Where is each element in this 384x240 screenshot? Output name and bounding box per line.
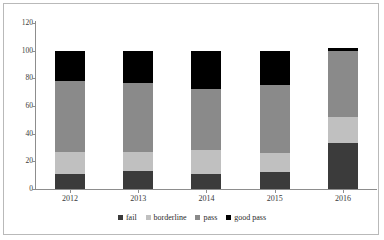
x-tick-mark bbox=[70, 190, 71, 193]
x-tick-mark bbox=[343, 190, 344, 193]
x-tick-mark bbox=[275, 190, 276, 193]
bar-segment-pass[interactable] bbox=[123, 83, 153, 152]
stacked-bar[interactable] bbox=[191, 51, 221, 189]
y-tick-label: 100 bbox=[7, 47, 33, 55]
y-tick-label: 40 bbox=[7, 130, 33, 138]
legend-label: pass bbox=[203, 213, 217, 222]
bar-group[interactable]: 2014 bbox=[172, 4, 240, 190]
stacked-bar[interactable] bbox=[328, 48, 358, 189]
legend-label: borderline bbox=[154, 213, 187, 222]
bar-segment-fail[interactable] bbox=[55, 174, 85, 189]
legend-item-pass[interactable]: pass bbox=[195, 213, 217, 222]
bar-group[interactable]: 2015 bbox=[241, 4, 309, 190]
bar-segment-pass[interactable] bbox=[55, 81, 85, 152]
bar-segment-borderline[interactable] bbox=[123, 152, 153, 171]
legend-swatch-icon bbox=[195, 215, 200, 220]
chart-legend: failborderlinepassgood pass bbox=[4, 213, 380, 222]
legend-item-fail[interactable]: fail bbox=[118, 213, 137, 222]
stacked-bar[interactable] bbox=[123, 51, 153, 189]
y-axis-labels: 120100806040200 bbox=[4, 4, 33, 240]
x-tick-label: 2012 bbox=[36, 194, 104, 203]
bar-segment-good-pass[interactable] bbox=[123, 51, 153, 83]
bar-segment-borderline[interactable] bbox=[55, 152, 85, 174]
bar-segment-good-pass[interactable] bbox=[55, 51, 85, 81]
bar-segment-fail[interactable] bbox=[328, 143, 358, 189]
x-tick-mark bbox=[206, 190, 207, 193]
legend-swatch-icon bbox=[118, 215, 123, 220]
legend-label: good pass bbox=[234, 213, 266, 222]
bar-group[interactable]: 2013 bbox=[104, 4, 172, 190]
x-tick-label: 2013 bbox=[104, 194, 172, 203]
bar-segment-good-pass[interactable] bbox=[260, 51, 290, 86]
bar-segment-borderline[interactable] bbox=[260, 153, 290, 172]
legend-item-good-pass[interactable]: good pass bbox=[226, 213, 266, 222]
chart-frame: 120100806040200 20122013201420152016 fai… bbox=[3, 3, 379, 235]
bar-segment-pass[interactable] bbox=[328, 51, 358, 117]
y-tick-label: 120 bbox=[7, 19, 33, 27]
bar-segment-borderline[interactable] bbox=[328, 117, 358, 143]
bar-segment-fail[interactable] bbox=[123, 171, 153, 189]
bar-segment-pass[interactable] bbox=[260, 85, 290, 153]
bar-segment-fail[interactable] bbox=[260, 172, 290, 189]
legend-swatch-icon bbox=[226, 215, 231, 220]
x-tick-mark bbox=[138, 190, 139, 193]
legend-item-borderline[interactable]: borderline bbox=[146, 213, 187, 222]
bar-series-container: 20122013201420152016 bbox=[36, 4, 377, 190]
bar-segment-fail[interactable] bbox=[191, 174, 221, 189]
x-tick-label: 2015 bbox=[241, 194, 309, 203]
y-tick-label: 80 bbox=[7, 74, 33, 82]
legend-swatch-icon bbox=[146, 215, 151, 220]
bar-segment-borderline[interactable] bbox=[191, 150, 221, 174]
x-tick-label: 2014 bbox=[172, 194, 240, 203]
bar-group[interactable]: 2012 bbox=[36, 4, 104, 190]
y-tick-label: 0 bbox=[7, 185, 33, 193]
bar-group[interactable]: 2016 bbox=[309, 4, 377, 190]
y-tick-label: 20 bbox=[7, 157, 33, 165]
legend-label: fail bbox=[126, 213, 137, 222]
stacked-bar[interactable] bbox=[260, 51, 290, 189]
bar-segment-pass[interactable] bbox=[191, 89, 221, 150]
x-tick-label: 2016 bbox=[309, 194, 377, 203]
bar-segment-good-pass[interactable] bbox=[191, 51, 221, 90]
stacked-bar[interactable] bbox=[55, 51, 85, 189]
y-tick-label: 60 bbox=[7, 102, 33, 110]
